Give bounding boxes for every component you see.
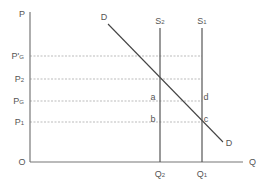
y-tick-label: PG [13, 96, 24, 106]
origin-label: O [18, 157, 25, 167]
y-tick-label: P2 [15, 74, 25, 84]
demand-label-end: D [226, 138, 233, 148]
supply-label-s2: S2 [155, 16, 165, 26]
point-label-b: b [150, 114, 155, 124]
supply-demand-chart: P'GP2PGP1PQODDS2S1Q2Q1abcd [0, 0, 263, 184]
point-label-a: a [150, 92, 155, 102]
point-label-c: c [204, 114, 209, 124]
x-axis-label: Q [249, 157, 256, 167]
demand-curve [108, 24, 223, 142]
point-label-d: d [203, 92, 208, 102]
x-tick-label: Q2 [155, 169, 166, 179]
x-tick-label: Q1 [197, 169, 208, 179]
y-tick-label: P'G [12, 51, 25, 61]
supply-label-s1: S1 [197, 16, 207, 26]
y-axis-label: P [19, 9, 25, 19]
y-tick-label: P1 [15, 117, 25, 127]
demand-label-start: D [101, 12, 108, 22]
